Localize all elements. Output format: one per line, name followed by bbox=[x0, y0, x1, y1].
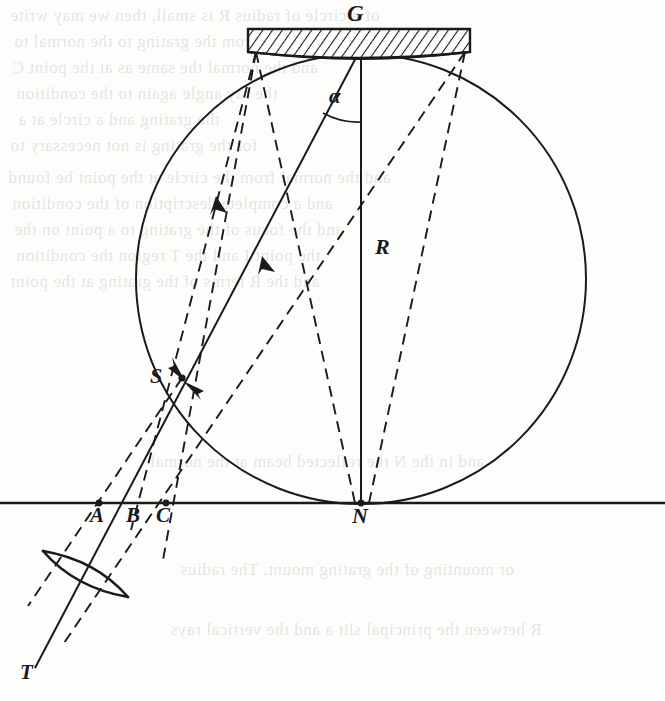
label-grating: G bbox=[347, 2, 364, 25]
arrow-on-right-dashed-ray bbox=[258, 256, 275, 275]
label-source: T bbox=[20, 662, 33, 683]
grating-hatch-fill bbox=[248, 29, 470, 58]
point-marker-S bbox=[178, 374, 185, 381]
ray-left-edge-to-B bbox=[131, 52, 256, 530]
label-radius: R bbox=[375, 236, 390, 258]
label-normal-foot: N bbox=[352, 505, 368, 527]
label-point-b: B bbox=[126, 505, 140, 526]
ray-right-edge-to-S bbox=[62, 52, 465, 646]
ray-left-edge-to-S bbox=[163, 52, 256, 560]
label-slit-image: S bbox=[150, 365, 162, 387]
alpha-angle-arc bbox=[323, 113, 361, 122]
ray-G-to-S-to-T bbox=[35, 50, 360, 668]
ray-S-to-A bbox=[28, 378, 182, 606]
ray-right-edge-to-N bbox=[369, 52, 465, 503]
figure-page: of a circle of radius R is small, then w… bbox=[0, 0, 665, 701]
label-alpha-angle: α bbox=[329, 86, 341, 107]
label-point-c: C bbox=[156, 505, 170, 526]
grating-block bbox=[248, 29, 470, 59]
point-marker-group bbox=[96, 374, 365, 506]
label-point-a: A bbox=[90, 505, 104, 526]
arrowhead-group bbox=[168, 196, 275, 400]
